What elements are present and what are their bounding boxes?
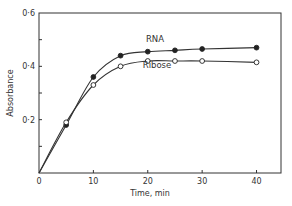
y-tick-label: 0·4 xyxy=(22,62,35,71)
x-tick-label: 10 xyxy=(88,177,98,186)
y-axis-label: Absorbance xyxy=(6,69,15,116)
y-tick-label: 0·6 xyxy=(22,9,35,18)
x-tick-label: 30 xyxy=(197,177,207,186)
data-point-rna xyxy=(254,45,259,50)
x-axis-label: Time, min xyxy=(129,189,170,198)
data-point-ribose xyxy=(200,59,205,64)
absorbance-chart: 0102030400·20·40·6 Time, min Absorbance … xyxy=(0,0,292,206)
series-label-rna: RNA xyxy=(146,34,164,44)
data-point-ribose xyxy=(64,120,69,125)
data-point-rna xyxy=(118,53,123,58)
series-label-ribose: Ribose xyxy=(143,60,172,70)
data-point-ribose xyxy=(91,83,96,88)
data-point-rna xyxy=(200,47,205,52)
y-tick-label: 0·2 xyxy=(22,116,35,125)
data-point-ribose xyxy=(254,60,259,65)
x-tick-label: 20 xyxy=(143,177,153,186)
axis-ticks: 0102030400·20·40·6 xyxy=(22,9,261,186)
series-line-ribose xyxy=(39,61,257,173)
x-tick-label: 0 xyxy=(36,177,41,186)
data-point-rna xyxy=(173,48,178,53)
data-point-rna xyxy=(91,75,96,80)
data-point-ribose xyxy=(173,59,178,64)
x-tick-label: 40 xyxy=(251,177,261,186)
data-point-ribose xyxy=(118,64,123,69)
data-point-rna xyxy=(145,49,150,54)
